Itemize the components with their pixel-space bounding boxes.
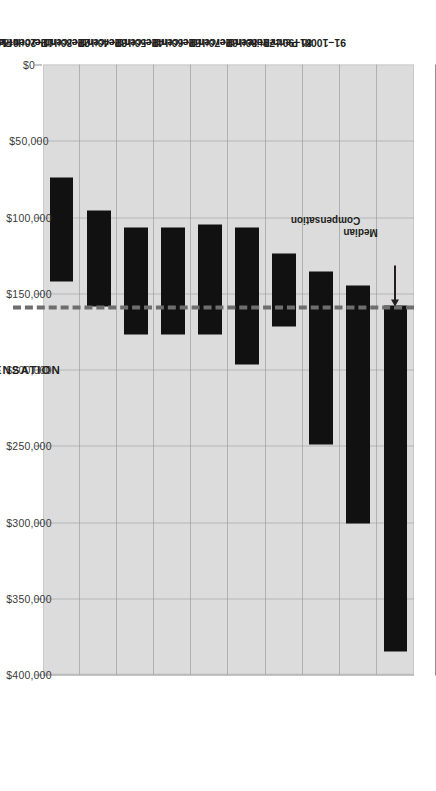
tick-label-250000: $250,000	[6, 439, 51, 451]
bar-2	[347, 285, 371, 523]
tick-label-100000: $100,000	[6, 211, 51, 223]
gridline-category-5	[228, 64, 229, 674]
tick-label-350000: $350,000	[6, 592, 51, 604]
tick-mark-0	[35, 64, 42, 65]
median-annotation-line1: Median	[343, 226, 377, 238]
gridline-value-50000	[43, 140, 414, 141]
gridline-category-2	[339, 64, 340, 674]
tick-label-50000: $50,000	[9, 134, 48, 146]
gridline-category-8	[116, 64, 117, 674]
gridline-category-7	[153, 64, 154, 674]
median-compensation-line	[13, 305, 414, 309]
median-annotation-arrow-head	[391, 299, 399, 306]
chart-stage: $0$50,000$100,000$150,000$200,000$250,00…	[0, 0, 436, 791]
bar-1	[384, 305, 408, 651]
category-label-10: 0–10th Percentile	[0, 36, 18, 48]
gridline-category-1	[376, 64, 377, 674]
tick-label-400000: $400,000	[6, 668, 51, 680]
value-axis-title: RANGE OF COMPENSATION	[0, 363, 61, 375]
tick-label-300000: $300,000	[6, 516, 51, 528]
bar-4	[272, 253, 296, 326]
plot-area	[43, 64, 414, 675]
gridline-value-400000	[43, 674, 414, 675]
gridline-category-4	[265, 64, 266, 674]
bar-3	[309, 271, 333, 443]
gridline-category-6	[190, 64, 191, 674]
gridline-value-350000	[43, 598, 414, 599]
bar-8	[124, 227, 148, 334]
bar-5	[235, 227, 259, 364]
median-annotation-line2: Compensation	[291, 214, 360, 226]
tick-label-150000: $150,000	[6, 287, 51, 299]
gridline-category-9	[79, 64, 80, 674]
bar-9	[87, 210, 111, 306]
tick-label-0: $0	[23, 58, 35, 70]
bar-7	[161, 227, 185, 334]
rotated-chart-canvas: $0$50,000$100,000$150,000$200,000$250,00…	[0, 0, 436, 791]
median-annotation-arrow-shaft	[394, 265, 396, 301]
gridline-category-3	[302, 64, 303, 674]
bar-6	[198, 224, 222, 334]
bar-10	[50, 177, 74, 281]
